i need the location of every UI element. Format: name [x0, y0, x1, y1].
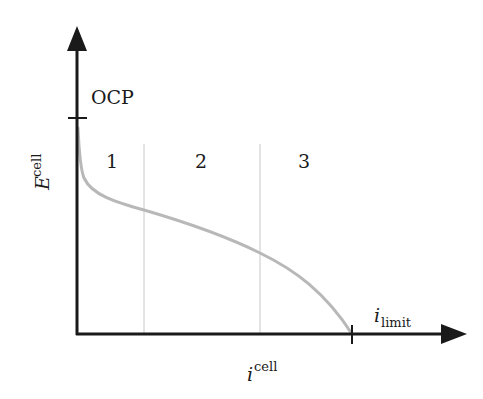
ilimit-label-sub: limit [381, 315, 412, 330]
polarization-curve [78, 128, 352, 334]
ocp-label: OCP [91, 86, 134, 108]
region-label-2: 2 [195, 150, 207, 172]
polarization-curve-diagram: OCP 1 2 3 E cell i cell i limit [0, 0, 483, 399]
ilimit-label-base: i [374, 304, 380, 326]
y-axis-label-super: cell [29, 154, 44, 177]
x-axis-arrowhead-icon [441, 324, 467, 344]
y-axis-label-base: E [31, 176, 53, 191]
y-axis-label: E cell [29, 154, 53, 191]
x-axis-label: i cell [247, 359, 277, 385]
ilimit-label: i limit [374, 304, 412, 330]
y-axis-arrowhead-icon [67, 26, 87, 51]
x-axis-label-super: cell [254, 359, 277, 374]
region-label-1: 1 [106, 150, 118, 172]
x-axis-label-base: i [247, 363, 253, 385]
region-label-3: 3 [298, 150, 310, 172]
